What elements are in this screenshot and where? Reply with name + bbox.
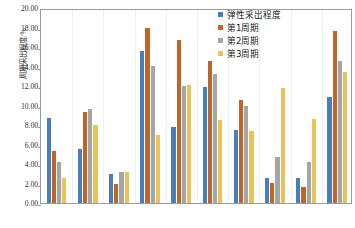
bar[interactable] [171,127,175,203]
y-axis-tick-label: 2.00 [6,181,38,189]
bar[interactable] [270,183,274,203]
bar[interactable] [203,87,207,203]
legend-swatch-icon [218,38,223,43]
bar[interactable] [187,85,191,203]
bar[interactable] [265,178,269,203]
legend-item[interactable]: 第2周期 [218,34,350,47]
y-axis-tick-mark [38,88,41,89]
bar[interactable] [88,109,92,203]
y-axis-tick-labels: 20.0018.0016.0014.0012.0010.008.006.004.… [6,4,38,208]
y-axis-tick-mark [38,108,41,109]
legend-swatch-icon [218,51,223,56]
x-axis [40,204,352,224]
bar[interactable] [83,112,87,203]
bar[interactable] [156,135,160,203]
y-axis-tick-mark [38,49,41,50]
bar[interactable] [52,151,56,203]
bar[interactable] [119,172,123,203]
bar[interactable] [218,120,222,203]
bar[interactable] [78,149,82,203]
bar[interactable] [307,162,311,203]
legend-swatch-icon [218,12,223,17]
bar[interactable] [296,178,300,203]
legend-item[interactable]: 第1周期 [218,21,350,34]
bar[interactable] [343,72,347,203]
y-axis-tick-label: 20.00 [6,5,38,13]
y-axis-tick-label: 12.00 [6,83,38,91]
y-axis-tick-label: 14.00 [6,64,38,72]
bar-group [166,10,197,203]
bar-group [41,10,72,203]
bar[interactable] [57,162,61,203]
legend-label: 第2周期 [227,36,259,46]
bar[interactable] [327,97,331,203]
bar-group [135,10,166,203]
legend-item[interactable]: 弹性采出程度 [218,8,350,21]
bar-group [72,10,103,203]
bar[interactable] [275,157,279,203]
chart-legend: 弹性采出程度第1周期第2周期第3周期 [218,8,350,60]
legend-label: 弹性采出程度 [227,10,281,20]
y-axis-tick-mark [38,30,41,31]
bar-group [103,10,134,203]
y-axis-tick-label: 16.00 [6,44,38,52]
bar[interactable] [177,40,181,203]
bar[interactable] [234,130,238,203]
bar[interactable] [281,88,285,203]
bar[interactable] [47,118,51,203]
y-axis-tick-label: 8.00 [6,122,38,130]
bar[interactable] [114,184,118,203]
bar[interactable] [125,172,129,203]
y-axis-tick-label: 18.00 [6,25,38,33]
bar[interactable] [182,86,186,203]
bar[interactable] [93,125,97,203]
bar[interactable] [140,51,144,203]
bar[interactable] [109,174,113,203]
bar[interactable] [301,187,305,203]
bar[interactable] [239,100,243,203]
bar[interactable] [213,74,217,203]
legend-item[interactable]: 第3周期 [218,47,350,60]
y-axis-tick-label: 10.00 [6,103,38,111]
y-axis-tick-mark [38,186,41,187]
y-axis-tick-mark [38,127,41,128]
bar[interactable] [145,28,149,204]
bar[interactable] [312,119,316,203]
y-axis-tick-label: 6.00 [6,142,38,150]
y-axis-tick-mark [38,166,41,167]
y-axis-tick-label: 0.00 [6,200,38,208]
y-axis-tick-label: 4.00 [6,161,38,169]
bar[interactable] [338,61,342,203]
bar[interactable] [244,106,248,203]
y-axis-tick-mark [38,69,41,70]
bar[interactable] [151,66,155,203]
legend-label: 第1周期 [227,23,259,33]
bar[interactable] [249,131,253,203]
bar[interactable] [62,178,66,203]
y-axis-tick-mark [38,147,41,148]
bar-chart: 周期采出程度/% 20.0018.0016.0014.0012.0010.008… [0,0,355,228]
legend-label: 第3周期 [227,49,259,59]
legend-swatch-icon [218,25,223,30]
bar[interactable] [208,61,212,203]
